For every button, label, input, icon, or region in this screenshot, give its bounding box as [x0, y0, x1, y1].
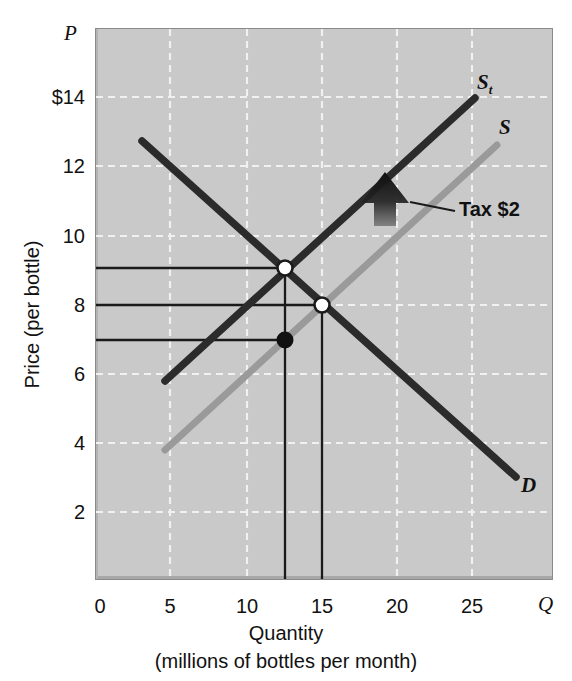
y-tick-2: 2	[10, 501, 85, 524]
x-tick-20: 20	[386, 595, 408, 618]
supply-curve	[165, 145, 497, 450]
supply-tax-curve-label-base: S	[477, 70, 489, 94]
tax-annotation-label: Tax $2	[459, 198, 520, 221]
x-tick-25: 25	[461, 595, 483, 618]
y-tick-12: 12	[10, 155, 85, 178]
tax-arrow-icon	[361, 172, 409, 226]
x-axis-title: Quantity	[0, 622, 572, 645]
x-tick-10: 10	[236, 595, 258, 618]
supply-curve-label: S	[499, 115, 511, 140]
y-tick-14: $14	[10, 86, 85, 109]
chart-canvas	[0, 0, 572, 681]
y-tick-4: 4	[10, 432, 85, 455]
x-axis-subtitle: (millions of bottles per month)	[0, 650, 572, 673]
x-tick-5: 5	[164, 595, 175, 618]
equilibrium-with-tax-marker	[278, 261, 293, 276]
y-axis-symbol: P	[64, 21, 77, 46]
y-axis-title: Price (per bottle)	[21, 200, 44, 430]
supply-tax-curve	[165, 98, 475, 381]
supply-tax-curve-label: St	[477, 70, 492, 98]
x-axis-symbol: Q	[538, 592, 553, 617]
supply-tax-curve-label-sub: t	[489, 82, 493, 97]
equilibrium-no-tax-marker	[315, 298, 330, 313]
demand-curve-label: D	[521, 473, 536, 498]
seller-price-marker	[278, 333, 293, 348]
x-tick-15: 15	[311, 595, 333, 618]
supply-demand-tax-figure: $14 12 10 8 6 4 2 0 5 10 15 20 25 P Q Pr…	[0, 0, 572, 681]
x-tick-0: 0	[94, 595, 105, 618]
reference-lines	[96, 268, 323, 579]
